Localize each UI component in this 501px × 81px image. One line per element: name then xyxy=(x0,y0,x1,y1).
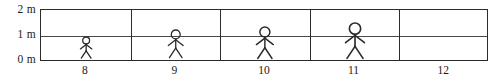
stick-figure-head xyxy=(171,30,180,39)
stick-figure-leg-left xyxy=(169,49,175,58)
stick-figure-head xyxy=(82,37,89,44)
stick-figure-leg-left xyxy=(347,46,355,58)
stick-figure-leg-left xyxy=(81,51,86,58)
stick-figure-leg-right xyxy=(265,47,272,58)
y-axis-label-2m: 2 m xyxy=(0,4,40,16)
gridline-vertical-1 xyxy=(131,10,132,60)
stick-figure-arm-right xyxy=(355,35,364,42)
stick-figure-head xyxy=(349,23,360,34)
plot-area xyxy=(40,9,488,61)
stick-figure-arm-right xyxy=(86,44,92,48)
y-axis-label-0m: 0 m xyxy=(0,54,40,66)
stick-figure-11 xyxy=(335,22,375,60)
stick-figure-arm-right xyxy=(175,40,182,46)
stick-figure-10 xyxy=(247,26,283,61)
x-axis-label-9: 9 xyxy=(144,65,204,77)
stick-figure-arm-left xyxy=(168,40,175,46)
gridline-vertical-2 xyxy=(220,10,221,60)
stick-figure-head xyxy=(260,27,270,37)
gridline-vertical-3 xyxy=(310,10,311,60)
stick-figure-leg-right xyxy=(175,49,181,58)
stick-figure-arm-left xyxy=(80,44,86,48)
gridline-vertical-4 xyxy=(399,10,400,60)
stick-figure-arm-right xyxy=(265,38,273,45)
stick-figure-8 xyxy=(74,36,98,60)
x-axis-label-8: 8 xyxy=(55,65,115,77)
y-axis-label-1m: 1 m xyxy=(0,29,40,41)
stick-figure-arm-left xyxy=(257,38,265,45)
stick-figure-9 xyxy=(160,29,191,60)
pictograph-figure: 2 m 1 m 0 m 89101112 xyxy=(0,0,501,81)
x-axis-label-12: 12 xyxy=(413,65,473,77)
stick-figure-arm-left xyxy=(345,35,354,42)
x-axis-label-10: 10 xyxy=(234,65,294,77)
stick-figure-leg-right xyxy=(355,46,363,58)
stick-figure-leg-left xyxy=(258,47,265,58)
x-axis-label-11: 11 xyxy=(324,65,384,77)
stick-figure-leg-right xyxy=(86,51,91,58)
